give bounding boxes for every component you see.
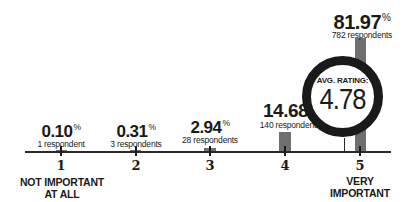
percent-sign: % [223, 118, 230, 128]
respondents-label-1: 1 respondent [21, 139, 101, 149]
percent-sign: % [149, 122, 156, 132]
tick-label-3: 3 [195, 158, 225, 173]
percent-sign: % [382, 12, 390, 23]
tick-label-1: 1 [46, 158, 76, 173]
axis-high-label-line-1: VERY [320, 175, 400, 187]
tick-label-4: 4 [270, 158, 300, 173]
tick-label-5: 5 [345, 158, 375, 173]
axis-low-label-line-1: NOT IMPORTANT [14, 176, 110, 188]
axis-low-label-line-2: AT ALL [14, 188, 110, 200]
tick-5 [359, 146, 361, 156]
respondents-label-2: 3 respondents [96, 139, 176, 149]
axis-high-label-line-2: IMPORTANT [320, 187, 400, 199]
avg-rating-badge: AVG. RATING: 4.78 [302, 56, 383, 137]
respondents-label-5: 782 respondents [322, 30, 402, 40]
avg-rating-value: 4.78 [315, 85, 370, 114]
tick-4 [284, 146, 286, 156]
axis-low-label: NOT IMPORTANT AT ALL [14, 176, 110, 200]
avg-rating-pointer [344, 138, 345, 152]
axis-high-label: VERY IMPORTANT [320, 175, 400, 199]
percent-sign: % [74, 122, 81, 132]
x-axis [25, 151, 391, 153]
tick-3 [209, 146, 211, 156]
respondents-label-3: 28 respondents [170, 135, 250, 145]
tick-label-2: 2 [121, 158, 151, 173]
value-4: 14.68 [263, 100, 308, 122]
